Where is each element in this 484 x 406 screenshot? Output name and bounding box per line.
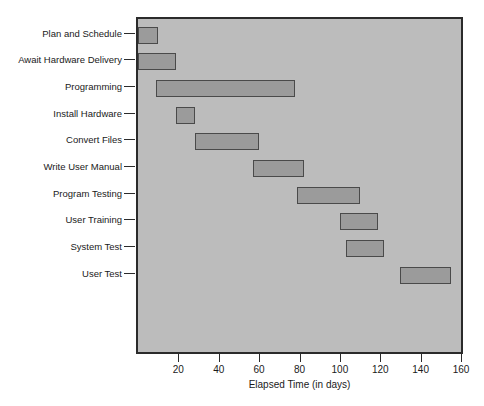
y-axis-tick-mark (124, 59, 135, 60)
bars-layer (138, 19, 461, 352)
y-axis-tick-label: System Test (70, 241, 124, 252)
y-axis-tick-label: User Test (82, 268, 124, 279)
gantt-bar (253, 160, 303, 177)
x-axis-tick-mark (178, 354, 179, 362)
y-axis-tick-label: Plan and Schedule (42, 28, 124, 39)
y-axis-tick-mark (124, 166, 135, 167)
y-axis-tick-label: Convert Files (66, 134, 124, 145)
gantt-bar (340, 213, 378, 230)
x-axis-tick-label: 20 (158, 364, 198, 375)
y-axis-tick-label: Install Hardware (53, 108, 124, 119)
x-axis-tick-label: 100 (320, 364, 360, 375)
y-axis-tick-mark (124, 86, 135, 87)
x-axis-tick-label: 40 (199, 364, 239, 375)
gantt-bar (176, 107, 194, 124)
y-axis-tick-label: Programming (65, 81, 124, 92)
x-axis-tick-mark (461, 354, 462, 362)
y-axis-tick-row: Await Hardware Delivery (0, 53, 136, 67)
y-axis-tick-mark (124, 139, 135, 140)
y-axis-tick-row: Program Testing (0, 186, 136, 200)
x-axis-tick-mark (340, 354, 341, 362)
x-axis-tick-label: 120 (360, 364, 400, 375)
y-axis-tick-label: Write User Manual (44, 161, 125, 172)
x-axis-title: Elapsed Time (in days) (136, 379, 463, 390)
x-axis-tick-label: 60 (239, 364, 279, 375)
x-axis-tick-mark (421, 354, 422, 362)
y-axis-tick-row: Plan and Schedule (0, 26, 136, 40)
gantt-bar (138, 53, 176, 70)
y-axis-tick-row: Write User Manual (0, 160, 136, 174)
y-axis-tick-label: Await Hardware Delivery (18, 54, 124, 65)
y-axis-tick-row: Convert Files (0, 133, 136, 147)
y-axis-tick-row: User Training (0, 213, 136, 227)
gantt-chart: Plan and ScheduleAwait Hardware Delivery… (0, 0, 484, 406)
gantt-bar (156, 80, 295, 97)
y-axis-tick-row: System Test (0, 240, 136, 254)
y-axis-tick-mark (124, 193, 135, 194)
y-axis-tick-row: Programming (0, 79, 136, 93)
y-axis-tick-label: Program Testing (53, 188, 124, 199)
gantt-bar (297, 187, 360, 204)
x-axis-tick-label: 160 (441, 364, 481, 375)
y-axis-tick-row: User Test (0, 266, 136, 280)
gantt-bar (138, 27, 158, 44)
x-axis-tick-mark (380, 354, 381, 362)
plot-area (136, 17, 463, 354)
y-axis-tick-mark (124, 246, 135, 247)
gantt-bar (346, 240, 384, 257)
gantt-bar (400, 267, 450, 284)
y-axis-tick-mark (124, 113, 135, 114)
x-axis-tick-mark (219, 354, 220, 362)
x-axis-tick-mark (259, 354, 260, 362)
y-axis-tick-mark (124, 33, 135, 34)
x-axis-tick-label: 140 (401, 364, 441, 375)
y-axis-tick-label: User Training (66, 214, 125, 225)
y-axis-tick-mark (124, 219, 135, 220)
y-axis-tick-row: Install Hardware (0, 106, 136, 120)
x-axis-tick-label: 80 (280, 364, 320, 375)
y-axis-tick-mark (124, 273, 135, 274)
x-axis-tick-mark (300, 354, 301, 362)
gantt-bar (195, 133, 260, 150)
